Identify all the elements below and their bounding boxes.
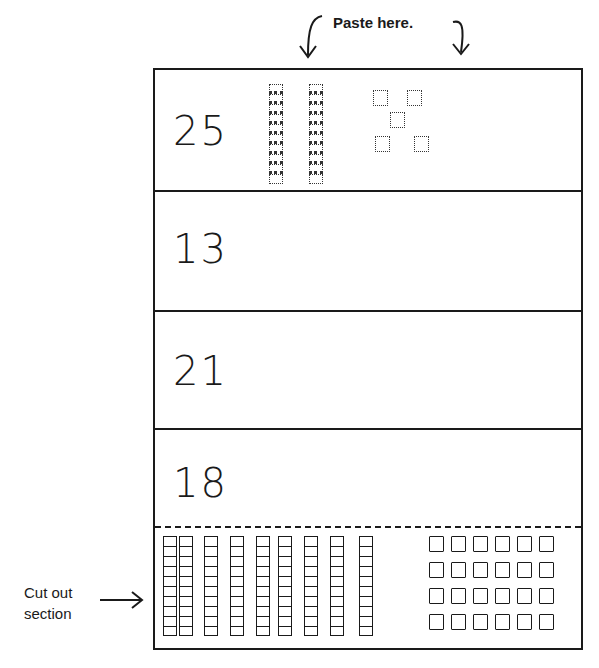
unit-square (495, 614, 510, 630)
row-number: 25 (173, 108, 228, 154)
ten-rod (204, 536, 218, 636)
unit-square (539, 562, 554, 578)
worksheet-row-4: 18 (155, 430, 581, 532)
ten-rod (179, 536, 193, 636)
unit-square (517, 588, 532, 604)
unit-square (473, 562, 488, 578)
ten-rod (230, 536, 244, 636)
pasted-ten-rod (309, 84, 323, 184)
worksheet-row-3: 21 (155, 312, 581, 430)
cut-out-section (155, 526, 581, 648)
pasted-unit-square (414, 136, 429, 152)
cut-out-label: Cut out section (24, 582, 72, 624)
unit-square (539, 536, 554, 552)
unit-square (517, 614, 532, 630)
unit-square (517, 536, 532, 552)
ten-rod (359, 536, 373, 636)
unit-square (429, 536, 444, 552)
ten-rod (330, 536, 344, 636)
row-number: 13 (173, 226, 228, 272)
pasted-unit-square (390, 112, 405, 128)
unit-square (517, 562, 532, 578)
place-value-worksheet: 25 13 21 18 (153, 68, 583, 650)
ten-rod (278, 536, 292, 636)
ten-rod (163, 536, 177, 636)
unit-square (429, 614, 444, 630)
paste-here-label: Paste here. (333, 14, 413, 31)
pasted-unit-square (373, 90, 388, 106)
unit-square (451, 588, 466, 604)
unit-square (473, 614, 488, 630)
unit-square (451, 562, 466, 578)
worksheet-row-2: 13 (155, 192, 581, 312)
curved-arrow-down-right-icon (447, 14, 477, 59)
ten-rod (304, 536, 318, 636)
unit-square (451, 614, 466, 630)
pasted-ten-rod (269, 84, 283, 184)
unit-square (429, 588, 444, 604)
ten-rod (256, 536, 270, 636)
pasted-unit-square (407, 90, 422, 106)
row-number: 18 (173, 460, 228, 506)
row-number: 21 (173, 348, 228, 394)
curved-arrow-down-left-icon (290, 10, 330, 65)
unit-square (473, 536, 488, 552)
unit-square (539, 614, 554, 630)
arrow-right-icon (98, 590, 146, 610)
unit-square (495, 536, 510, 552)
unit-square (495, 588, 510, 604)
unit-square (539, 588, 554, 604)
unit-square (429, 562, 444, 578)
pasted-unit-square (375, 136, 390, 152)
unit-square (473, 588, 488, 604)
unit-square (495, 562, 510, 578)
worksheet-row-1: 25 (155, 70, 581, 192)
unit-square (451, 536, 466, 552)
